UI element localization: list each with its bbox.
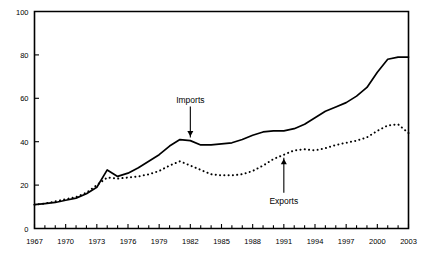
x-tick-label: 1982 xyxy=(182,237,199,246)
axis-frame xyxy=(35,12,409,229)
x-tick-label: 1991 xyxy=(275,237,292,246)
y-tick-label: 0 xyxy=(24,225,28,234)
chart-container: 1967197019731976197919821985198819911994… xyxy=(0,0,425,258)
y-tick-label: 20 xyxy=(20,181,28,190)
y-tick-label: 60 xyxy=(20,94,28,103)
chart-annotations: ImportsExports xyxy=(176,95,298,206)
x-axis-tick-labels: 1967197019731976197919821985198819911994… xyxy=(26,237,417,246)
x-tick-label: 1979 xyxy=(151,237,168,246)
x-tick-label: 2003 xyxy=(400,237,417,246)
y-axis-tick-labels: 020406080100 xyxy=(16,8,29,234)
annotation-arrow-head xyxy=(187,131,193,137)
y-tick-label: 80 xyxy=(20,51,28,60)
y-tick-label: 40 xyxy=(20,138,28,147)
x-tick-label: 2000 xyxy=(369,237,386,246)
x-tick-label: 1997 xyxy=(338,237,355,246)
x-tick-label: 1970 xyxy=(57,237,74,246)
x-tick-label: 1976 xyxy=(120,237,137,246)
x-tick-label: 1967 xyxy=(26,237,43,246)
chart-axes xyxy=(35,12,409,229)
y-tick-label: 100 xyxy=(16,8,29,17)
x-tick-label: 1988 xyxy=(244,237,261,246)
line-chart: 1967197019731976197919821985198819911994… xyxy=(0,0,425,258)
x-tick-label: 1985 xyxy=(213,237,230,246)
series-line-imports xyxy=(35,57,409,205)
annotation-label-exports: Exports xyxy=(269,196,298,206)
x-tick-label: 1973 xyxy=(88,237,105,246)
annotation-arrow-head xyxy=(281,159,287,165)
x-tick-label: 1994 xyxy=(307,237,324,246)
chart-series xyxy=(35,57,409,205)
series-line-exports xyxy=(35,124,409,204)
annotation-label-imports: Imports xyxy=(176,95,204,105)
